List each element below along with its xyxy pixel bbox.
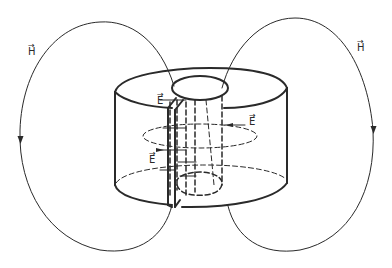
e-label-middle: → E <box>149 155 155 165</box>
inner-hole-bottom <box>177 172 222 195</box>
inner-hole-top <box>172 76 228 100</box>
resonator-diagram: → H → H → E → E → E <box>0 0 392 268</box>
vector-arrow-icon: → <box>28 42 35 50</box>
h-label-left: → H <box>28 47 36 57</box>
h-field-loop-left <box>20 22 174 251</box>
outer-cylinder-top-back <box>115 68 287 92</box>
e-label-right: → E <box>249 117 255 127</box>
vector-arrow-icon: → <box>357 38 364 46</box>
vector-arrow-icon: → <box>149 150 156 158</box>
e-arrowhead-icon <box>156 148 164 152</box>
h-label-right: → H <box>357 43 365 53</box>
e-label-top: → E <box>157 96 163 106</box>
outer-cylinder-bottom-back <box>116 165 287 183</box>
h-arrow-right-icon <box>371 126 377 134</box>
vector-arrow-icon: → <box>157 91 164 99</box>
outer-cylinder-top-front <box>115 88 287 108</box>
e-field-loop <box>143 124 257 148</box>
h-arrow-left-icon <box>18 136 24 144</box>
diagram-canvas <box>0 0 392 268</box>
e-arrowhead-icon <box>226 123 233 127</box>
h-field-loop-right <box>222 18 373 251</box>
vector-arrow-icon: → <box>249 112 256 120</box>
